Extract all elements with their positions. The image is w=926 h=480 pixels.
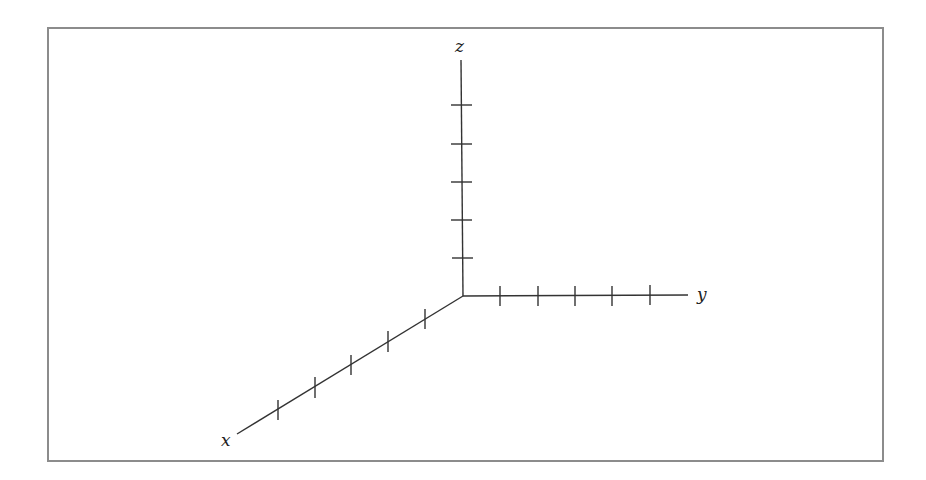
x-axis-label: x	[221, 430, 231, 450]
y-axis-label: y	[696, 284, 707, 304]
z-axis-label: z	[454, 36, 465, 56]
x-axis-line	[237, 296, 463, 434]
coordinate-axes-diagram: z y x	[0, 0, 926, 480]
z-axis-line	[461, 60, 463, 296]
